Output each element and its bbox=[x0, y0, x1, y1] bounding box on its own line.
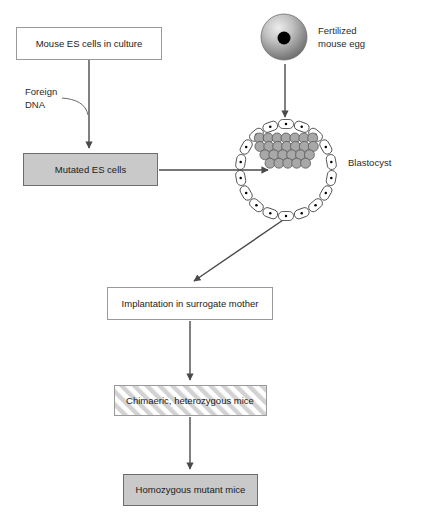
trophoblast-nucleus bbox=[314, 204, 317, 207]
trophoblast-nucleus bbox=[325, 192, 328, 195]
trophoblast-nucleus bbox=[239, 177, 242, 180]
box-label-chimaeric-mice: Chimaeric, heterozygous mice bbox=[126, 395, 254, 406]
trophoblast-nucleus bbox=[285, 123, 288, 126]
box-label-mouse-es-cells: Mouse ES cells in culture bbox=[36, 38, 143, 49]
trophoblast-nucleus bbox=[330, 177, 333, 180]
label-foreign-dna-line1: Foreign bbox=[25, 86, 57, 97]
box-implantation[interactable]: Implantation in surrogate mother bbox=[108, 288, 273, 320]
inner-cell-mass-cell bbox=[283, 158, 293, 168]
label-foreign-dna-line2: DNA bbox=[25, 99, 46, 110]
box-mutated-es-cells[interactable]: Mutated ES cells bbox=[24, 154, 158, 186]
label-blastocyst: Blastocyst bbox=[348, 157, 392, 168]
trophoblast-nucleus bbox=[245, 192, 248, 195]
box-homozygous-mice[interactable]: Homozygous mutant mice bbox=[124, 475, 258, 506]
inner-cell-mass-cell bbox=[265, 158, 275, 168]
label-blastocyst-text: Blastocyst bbox=[348, 157, 392, 168]
box-chimaeric-mice[interactable]: Chimaeric, heterozygous mice bbox=[115, 386, 267, 416]
box-label-homozygous-mice: Homozygous mutant mice bbox=[136, 484, 246, 495]
box-label-implantation: Implantation in surrogate mother bbox=[122, 298, 259, 309]
trophoblast-nucleus bbox=[300, 212, 303, 215]
trophoblast-nucleus bbox=[255, 204, 258, 207]
label-fertilized-egg-line2: mouse egg bbox=[318, 38, 365, 49]
label-fertilized-egg: Fertilized mouse egg bbox=[318, 25, 365, 49]
connector-blastocyst-to-implantation bbox=[194, 218, 286, 281]
connector-foreign-dna bbox=[62, 98, 88, 115]
label-fertilized-egg-line1: Fertilized bbox=[318, 25, 357, 36]
trophoblast-nucleus bbox=[245, 146, 248, 149]
trophoblast-nucleus bbox=[269, 126, 272, 128]
inner-cell-mass-cell bbox=[301, 158, 311, 168]
inner-cell-mass-cell bbox=[292, 158, 302, 168]
box-mouse-es-cells[interactable]: Mouse ES cells in culture bbox=[17, 28, 162, 60]
trophoblast-nucleus bbox=[330, 161, 333, 164]
label-foreign-dna: Foreign DNA bbox=[25, 86, 57, 110]
inner-cell-mass-cell bbox=[274, 158, 284, 168]
trophoblast-nucleus bbox=[285, 215, 288, 218]
egg-nucleus bbox=[278, 32, 291, 45]
fertilized-mouse-egg-icon bbox=[261, 14, 307, 60]
trophoblast-nucleus bbox=[269, 212, 272, 215]
trophoblast-nucleus bbox=[325, 146, 328, 149]
trophoblast-nucleus bbox=[300, 126, 303, 128]
inner-cell-mass bbox=[254, 133, 318, 168]
workflow-diagram: Mouse ES cells in culture Mutated ES cel… bbox=[0, 0, 424, 520]
diagram-canvas: Mouse ES cells in culture Mutated ES cel… bbox=[0, 0, 424, 520]
trophoblast-nucleus bbox=[239, 161, 242, 164]
box-label-mutated-es-cells: Mutated ES cells bbox=[55, 164, 127, 175]
